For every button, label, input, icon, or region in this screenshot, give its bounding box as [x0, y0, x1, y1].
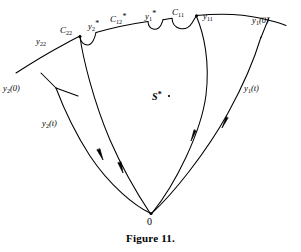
label-y2-t-suffix: (t)	[49, 118, 57, 128]
label-y1-t-suffix: (t)	[251, 83, 259, 93]
tick-y2-0-lower	[56, 88, 78, 96]
point-y22	[79, 35, 82, 38]
label-y11-sub: 11	[207, 16, 213, 22]
label-y2-0: y2(0)	[3, 84, 20, 94]
label-c12-star: C12*	[110, 13, 126, 25]
label-region-s-star: S*	[152, 91, 162, 102]
scallop-c22	[80, 33, 96, 45]
label-region-s-base: S	[152, 91, 158, 102]
arc-segment-pre-c11	[163, 18, 172, 20]
tick-y2-0-upper	[41, 73, 56, 88]
arrowhead-y2-t	[97, 149, 103, 160]
figure-caption: Figure 11.	[0, 232, 301, 244]
label-c22-sub: 22	[66, 30, 72, 36]
label-y1-star-star: *	[152, 9, 156, 18]
label-y2-star-star: *	[95, 19, 99, 28]
label-y2-star: y2*	[88, 20, 99, 32]
label-c11-sub: 11	[178, 12, 184, 18]
curve-y2-t	[56, 88, 150, 213]
point-region-marker	[168, 95, 170, 97]
label-y1-t: y1(t)	[244, 84, 259, 94]
label-y11: y11	[203, 12, 213, 22]
label-y1-0-suffix: (0)	[259, 15, 269, 25]
label-y2-0-suffix: (0)	[10, 83, 20, 93]
label-c11: C11	[172, 8, 184, 18]
label-y1-star: y1*	[145, 10, 156, 22]
label-c22: C22	[60, 26, 72, 36]
point-origin	[149, 212, 152, 215]
label-origin: 0	[147, 217, 152, 227]
label-y22-sub: 22	[40, 41, 46, 47]
label-c12-star-star: *	[122, 12, 126, 21]
point-y11	[195, 14, 198, 17]
label-y22: y22	[36, 37, 46, 47]
label-region-s-star-glyph: *	[158, 90, 162, 99]
label-y1-0: y1(0)	[252, 16, 269, 26]
figure-container: y1(0) y11 C11 y1* C12* y2* C22 y22 y2(0)…	[0, 0, 301, 252]
outer-arc-left-tail	[16, 36, 80, 73]
arrowhead-left-boundary	[118, 162, 123, 173]
label-y2-t: y2(t)	[42, 119, 57, 129]
